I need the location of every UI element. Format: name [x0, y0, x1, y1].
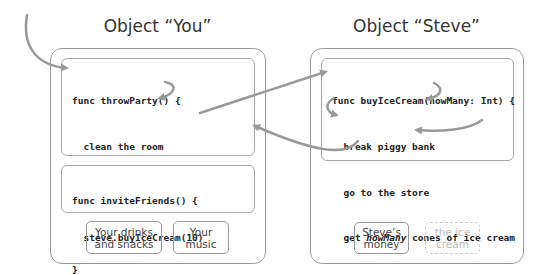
chip-line: music: [185, 238, 216, 250]
property-music: Yourmusic: [173, 221, 229, 254]
chip-line: Your: [185, 226, 216, 238]
chip-line: money: [362, 238, 401, 250]
code-line: func inviteFriends() {: [72, 195, 198, 207]
code-line: break piggy bank: [332, 139, 515, 154]
code-line: clean the room: [72, 139, 255, 154]
code-line: func buyIceCream(howMany: Int) {: [332, 93, 515, 108]
code-line: }: [72, 264, 198, 275]
object-you-title: Object “You”: [50, 16, 265, 36]
code-line: func throwParty() {: [72, 93, 255, 108]
chip-line: the ice: [435, 226, 471, 238]
chip-line: and snacks: [95, 238, 154, 250]
property-drinks-and-snacks: Your drinksand snacks: [86, 221, 162, 254]
object-steve-title: Object “Steve”: [310, 16, 523, 36]
chip-line: Your drinks: [95, 226, 154, 238]
code-line: go to the store: [332, 185, 515, 200]
chip-line: Steve’s: [362, 226, 401, 238]
chip-line: cream: [435, 238, 471, 250]
property-steves-money: Steve’smoney: [354, 222, 409, 254]
property-the-ice-cream: the icecream: [425, 222, 480, 254]
